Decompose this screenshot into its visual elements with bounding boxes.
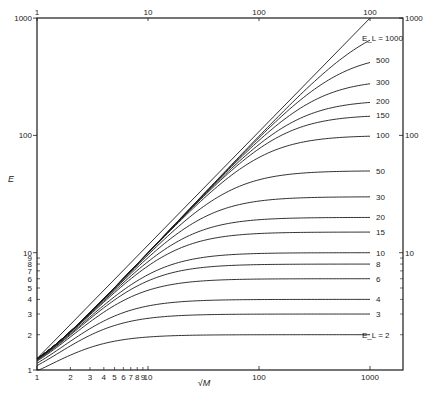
y-tick-label: 1 <box>28 366 33 375</box>
curve-labels: E_L = 100050030020015010050302015108643E… <box>362 34 403 340</box>
curve-label: 30 <box>376 193 385 202</box>
x-tick-label: 3 <box>88 373 93 382</box>
y-tick-label: 6 <box>28 275 33 284</box>
y-tick-label: 2 <box>28 331 33 340</box>
top-x-tick-label: 1 <box>35 8 40 17</box>
y-tick-label: 3 <box>28 310 33 319</box>
curve-EL-15 <box>37 232 370 359</box>
x-tick-label: 1 <box>35 373 40 382</box>
x-tick-label: 4 <box>102 373 107 382</box>
curve-EL-2 <box>37 335 370 370</box>
y-tick-label: 1000 <box>14 14 32 23</box>
curve-label: 15 <box>376 228 385 237</box>
curve-label: 500 <box>376 56 390 65</box>
curve-label: 4 <box>376 295 381 304</box>
y-tick-label: 100 <box>19 131 33 140</box>
curve-label: E_L = 2 <box>362 331 390 340</box>
x-tick-label: 2 <box>68 373 73 382</box>
curve-label: 150 <box>376 111 390 120</box>
curve-EL-1000 <box>37 40 370 358</box>
asymptote-line <box>37 18 370 359</box>
x-tick-label: 7 <box>129 373 134 382</box>
top-x-tick-label: 100 <box>252 8 266 17</box>
x-tick-label: 8 <box>135 373 140 382</box>
y-tick-label: 4 <box>28 295 33 304</box>
right-y-tick-label: 10 <box>405 249 414 258</box>
x-axis-title: √M <box>198 378 211 388</box>
top-x-tick-label: 10 <box>144 8 153 17</box>
right-y-tick-label: 1000 <box>405 14 423 23</box>
x-tick-label: 9 <box>141 373 146 382</box>
curve-label: 8 <box>376 260 381 269</box>
x-tick-label: 100 <box>252 373 266 382</box>
y-tick-label: 5 <box>28 284 33 293</box>
curve-EL-4 <box>37 299 370 363</box>
top-x-tick-label: 100 <box>363 8 377 17</box>
log-log-plot: 1101001000234567891101001001101001000234… <box>0 0 430 395</box>
chart-container: 1101001000234567891101001001101001000234… <box>0 0 430 395</box>
right-y-tick-label: 100 <box>405 131 419 140</box>
curve-label: 50 <box>376 167 385 176</box>
curve-EL-20 <box>37 217 370 359</box>
curve-label: 3 <box>376 310 381 319</box>
curve-EL-10 <box>37 253 370 360</box>
curve-label: 20 <box>376 213 385 222</box>
curve-label: E_L = 1000 <box>362 34 403 43</box>
curve-label: 10 <box>376 249 385 258</box>
curve-label: 6 <box>376 275 381 284</box>
x-tick-label: 1000 <box>361 373 379 382</box>
curve-EL-150 <box>37 116 370 358</box>
x-tick-label: 6 <box>121 373 126 382</box>
curves <box>37 18 370 370</box>
y-axis-title: E <box>8 174 15 184</box>
curve-label: 300 <box>376 78 390 87</box>
curve-EL-100 <box>37 136 370 358</box>
curve-label: 200 <box>376 97 390 106</box>
curve-label: 100 <box>376 131 390 140</box>
x-tick-label: 5 <box>112 373 117 382</box>
y-tick-label: 9 <box>28 254 33 263</box>
